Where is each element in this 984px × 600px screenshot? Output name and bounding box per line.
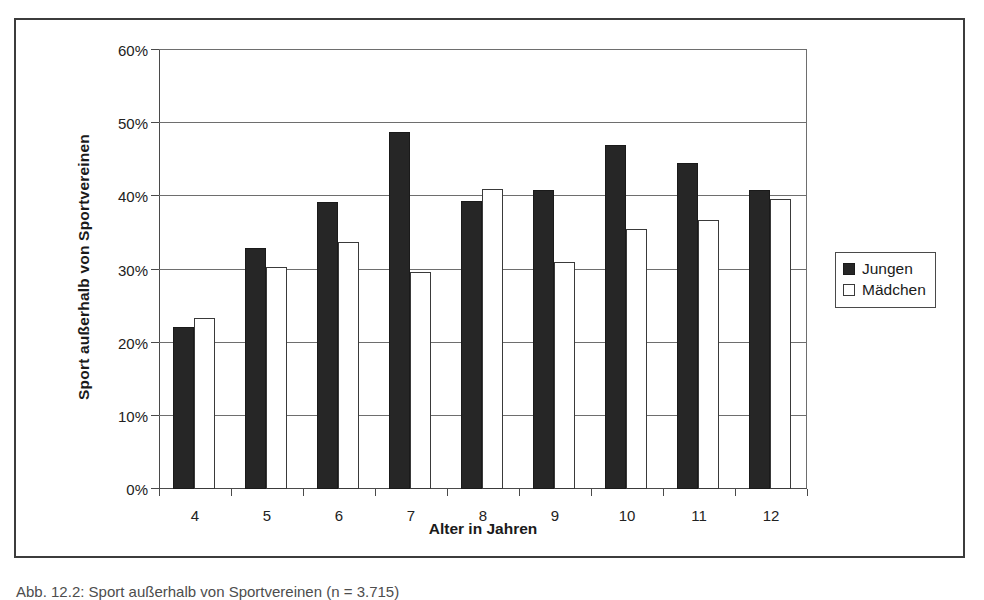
y-tick-mark: [151, 488, 159, 489]
bar-mädchen-age-8: [482, 189, 503, 489]
bar-mädchen-age-6: [338, 242, 359, 489]
bar-group-age-10: 10: [591, 50, 663, 489]
chart-legend: JungenMädchen: [835, 252, 936, 308]
bar-jungen-age-11: [677, 163, 698, 489]
legend-swatch-mädchen-icon: [843, 284, 855, 296]
x-tick-mark: [231, 489, 232, 496]
y-tick-label: 60%: [118, 42, 148, 59]
y-tick-mark: [151, 269, 159, 270]
bar-mädchen-age-4: [194, 318, 215, 489]
plot-area: 0%10%20%30%40%50%60% 456789101112: [159, 50, 807, 489]
bar-jungen-age-12: [749, 190, 770, 489]
x-tick-mark: [519, 489, 520, 496]
bar-group-age-9: 9: [519, 50, 591, 489]
bar-mädchen-age-10: [626, 229, 647, 489]
x-tick-mark: [159, 489, 160, 496]
bar-jungen-age-5: [245, 248, 266, 489]
bar-mädchen-age-9: [554, 262, 575, 489]
figure-frame: Sport außerhalb von Sportvereinen 0%10%2…: [14, 18, 965, 558]
x-tick-mark: [447, 489, 448, 496]
bar-group-age-6: 6: [303, 50, 375, 489]
bar-jungen-age-6: [317, 202, 338, 489]
bar-group-age-11: 11: [663, 50, 735, 489]
y-tick-label: 50%: [118, 115, 148, 132]
bar-group-age-7: 7: [375, 50, 447, 489]
y-tick-mark: [151, 49, 159, 50]
y-tick-mark: [151, 122, 159, 123]
legend-item-jungen: Jungen: [843, 258, 926, 279]
bar-group-age-4: 4: [159, 50, 231, 489]
bar-mädchen-age-7: [410, 272, 431, 489]
x-tick-mark: [735, 489, 736, 496]
bars-layer: 456789101112: [159, 50, 807, 489]
y-tick-label: 20%: [118, 334, 148, 351]
legend-item-mädchen: Mädchen: [843, 279, 926, 300]
bar-group-age-5: 5: [231, 50, 303, 489]
bar-jungen-age-8: [461, 201, 482, 489]
y-tick-label: 0%: [126, 481, 148, 498]
bar-group-age-12: 12: [735, 50, 807, 489]
bar-jungen-age-7: [389, 132, 410, 489]
bar-jungen-age-10: [605, 145, 626, 489]
y-tick-label: 30%: [118, 261, 148, 278]
x-tick-mark: [375, 489, 376, 496]
x-axis-title: Alter in Jahren: [159, 520, 807, 538]
bar-mädchen-age-5: [266, 267, 287, 489]
y-tick-label: 40%: [118, 188, 148, 205]
legend-swatch-jungen-icon: [843, 263, 855, 275]
bar-group-age-8: 8: [447, 50, 519, 489]
bar-mädchen-age-12: [770, 199, 791, 489]
bar-jungen-age-9: [533, 190, 554, 489]
legend-label: Mädchen: [862, 279, 926, 300]
bar-jungen-age-4: [173, 327, 194, 489]
legend-label: Jungen: [862, 258, 913, 279]
x-tick-mark: [663, 489, 664, 496]
x-tick-mark: [591, 489, 592, 496]
x-tick-mark: [807, 489, 808, 496]
y-tick-mark: [151, 415, 159, 416]
y-axis-title: Sport außerhalb von Sportvereinen: [75, 57, 93, 477]
y-tick-mark: [151, 195, 159, 196]
x-tick-mark: [303, 489, 304, 496]
figure-caption: Abb. 12.2: Sport außerhalb von Sportvere…: [16, 583, 399, 600]
y-tick-mark: [151, 342, 159, 343]
bar-mädchen-age-11: [698, 220, 719, 489]
y-tick-label: 10%: [118, 407, 148, 424]
